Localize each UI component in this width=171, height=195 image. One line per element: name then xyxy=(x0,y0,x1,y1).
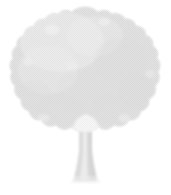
tree-illustration: Tree xyxy=(0,0,171,195)
tree-graphic xyxy=(0,0,171,195)
